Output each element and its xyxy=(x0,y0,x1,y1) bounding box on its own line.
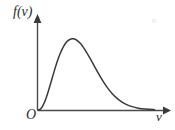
scan-artifact-speck xyxy=(152,19,156,23)
x-axis-label: v xyxy=(156,110,162,123)
y-axis-arrowhead xyxy=(34,14,42,23)
x-axis-arrowhead xyxy=(163,107,171,115)
origin-label: O xyxy=(26,108,36,122)
distribution-curve xyxy=(39,39,155,110)
y-axis-label: f(v) xyxy=(13,5,32,19)
maxwell-distribution-figure: f(v) v O xyxy=(0,0,175,130)
